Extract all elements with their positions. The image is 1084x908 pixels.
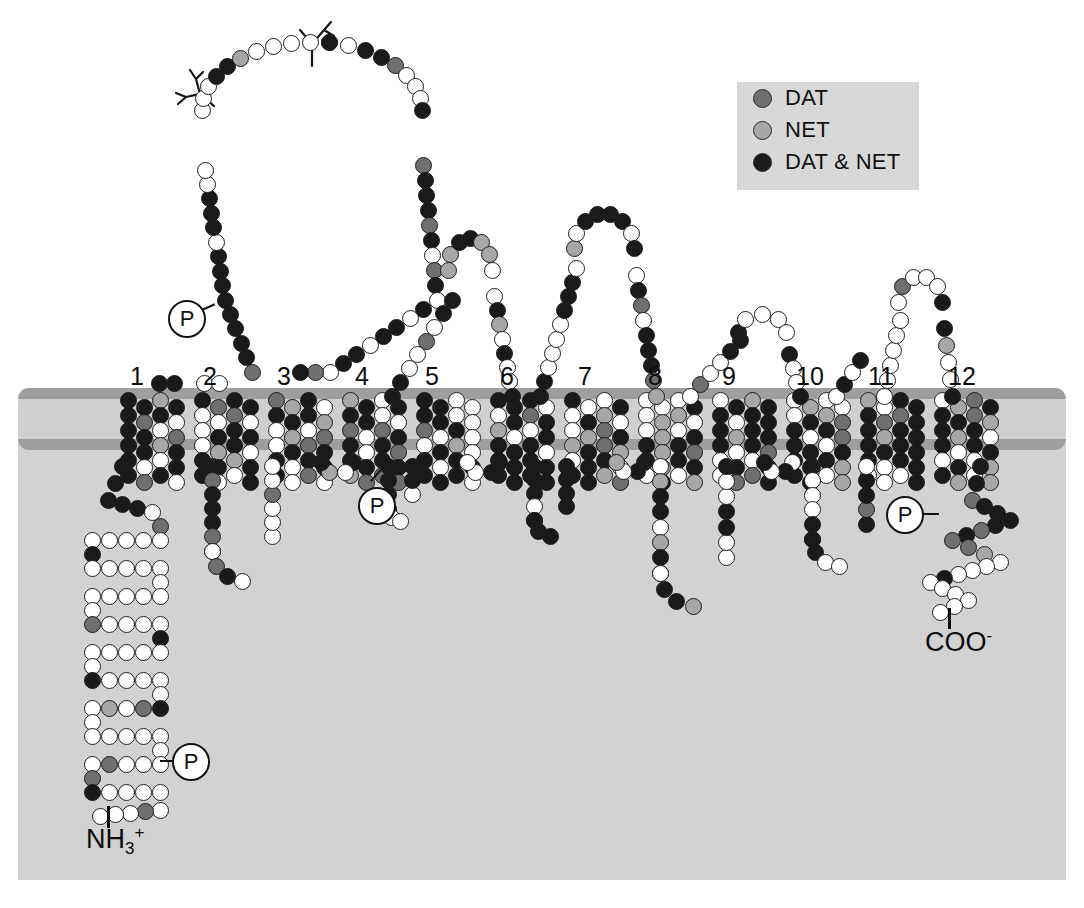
residue xyxy=(101,560,118,577)
residue xyxy=(152,532,169,549)
residue xyxy=(135,588,152,605)
residue xyxy=(566,240,583,257)
residue xyxy=(858,501,875,518)
residue xyxy=(596,467,613,484)
legend-item-dat: DAT xyxy=(753,82,919,114)
residue xyxy=(580,459,597,476)
residue xyxy=(168,399,185,416)
residue xyxy=(84,616,101,633)
residue xyxy=(638,407,655,424)
residue xyxy=(101,672,118,689)
residue xyxy=(638,437,655,454)
residue xyxy=(135,784,152,801)
residue xyxy=(973,522,990,539)
tm-number-9: 9 xyxy=(722,362,736,391)
residue xyxy=(786,422,803,439)
residue xyxy=(892,312,909,329)
residue xyxy=(423,232,440,249)
residue xyxy=(300,467,317,484)
residue xyxy=(834,474,851,491)
residue xyxy=(421,217,438,234)
residue xyxy=(234,573,251,590)
residue xyxy=(136,444,153,461)
residue xyxy=(728,399,745,416)
residue xyxy=(596,437,613,454)
residue xyxy=(135,616,152,633)
residue xyxy=(786,407,803,424)
residue xyxy=(936,320,953,337)
residue xyxy=(152,700,169,717)
residue xyxy=(934,452,951,469)
residue xyxy=(756,454,773,471)
residue xyxy=(268,437,285,454)
residue xyxy=(284,429,301,446)
residue xyxy=(506,429,523,446)
residue xyxy=(982,414,999,431)
residue xyxy=(982,399,999,416)
residue xyxy=(226,392,243,409)
residue xyxy=(934,437,951,454)
residue xyxy=(580,414,597,431)
residue xyxy=(210,414,227,431)
residue xyxy=(194,407,211,424)
residue xyxy=(152,588,169,605)
residue xyxy=(506,474,523,491)
residue xyxy=(580,474,597,491)
residue xyxy=(490,437,507,454)
residue xyxy=(152,784,169,801)
tm-number-1: 1 xyxy=(130,362,144,391)
residue xyxy=(834,459,851,476)
residue xyxy=(197,162,214,179)
legend-item-net: NET xyxy=(753,114,919,146)
residue xyxy=(232,50,249,67)
residue xyxy=(652,503,669,520)
residue xyxy=(357,42,374,59)
residue xyxy=(860,392,877,409)
residue xyxy=(929,278,946,295)
residue xyxy=(890,294,907,311)
residue xyxy=(404,458,421,475)
residue xyxy=(300,422,317,439)
residue xyxy=(892,467,909,484)
residue xyxy=(152,467,169,484)
residue xyxy=(580,399,597,416)
residue xyxy=(490,422,507,439)
residue xyxy=(968,475,985,492)
residue xyxy=(242,429,259,446)
residue xyxy=(737,311,754,328)
residue xyxy=(564,437,581,454)
residue xyxy=(950,459,967,476)
residue xyxy=(194,392,211,409)
residue xyxy=(686,444,703,461)
phospho-site-n-terminal: P xyxy=(172,743,210,781)
residue xyxy=(226,422,243,439)
residue xyxy=(432,399,449,416)
residue xyxy=(718,488,735,505)
n-terminus-text: NH xyxy=(86,824,125,854)
residue xyxy=(168,429,185,446)
residue xyxy=(374,407,391,424)
residue xyxy=(444,292,461,309)
residue xyxy=(416,392,433,409)
residue xyxy=(168,414,185,431)
residue xyxy=(860,407,877,424)
residue xyxy=(358,399,375,416)
residue xyxy=(136,474,153,491)
residue xyxy=(934,294,951,311)
residue xyxy=(888,327,905,344)
residue xyxy=(358,414,375,431)
residue xyxy=(778,324,795,341)
residue xyxy=(210,429,227,446)
residue xyxy=(118,616,135,633)
residue xyxy=(612,429,629,446)
residue xyxy=(966,422,983,439)
residue xyxy=(284,474,301,491)
residue xyxy=(432,459,449,476)
residue xyxy=(538,429,555,446)
phospho-site-intracellular-loop: P xyxy=(358,487,396,525)
residue xyxy=(118,784,135,801)
legend-swatch-dat-net xyxy=(753,153,772,172)
n-terminus-sup: + xyxy=(134,823,144,842)
residue xyxy=(448,422,465,439)
residue xyxy=(101,728,118,745)
